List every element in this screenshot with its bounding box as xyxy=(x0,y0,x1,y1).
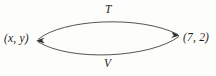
bottom-arrowhead-icon xyxy=(36,38,45,44)
bottom-arrow-curve xyxy=(38,37,180,55)
node-label-right: (7, 2) xyxy=(183,32,209,44)
transformation-diagram: (x, y) (7, 2) T V xyxy=(0,0,216,76)
node-label-left: (x, y) xyxy=(4,33,29,45)
top-arrow-curve xyxy=(38,22,178,40)
edge-label-top: T xyxy=(105,4,111,16)
edge-label-bottom: V xyxy=(104,58,111,70)
